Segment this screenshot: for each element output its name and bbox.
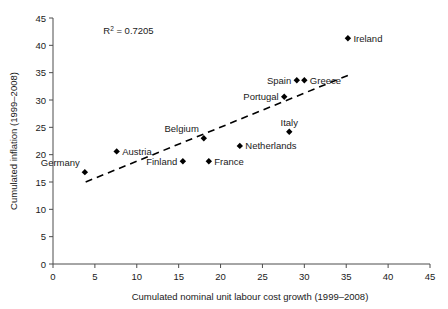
- data-point-marker: [237, 143, 243, 149]
- x-axis-ticks: 051015202530354045: [50, 264, 435, 282]
- data-point-label: Ireland: [353, 33, 382, 44]
- data-point-label: Germany: [41, 157, 80, 168]
- r-squared-annotation: R2 = 0.7205: [103, 25, 153, 37]
- data-point-marker: [206, 158, 212, 164]
- x-tick-label: 0: [50, 271, 55, 282]
- data-point-marker: [201, 135, 207, 141]
- y-tick-label: 30: [35, 95, 46, 106]
- scatter-chart: 051015202530354045 051015202530354045 Ge…: [0, 0, 448, 309]
- annotations-group: R2 = 0.7205: [103, 25, 153, 37]
- x-tick-label: 10: [131, 271, 142, 282]
- y-tick-label: 45: [35, 13, 46, 24]
- y-tick-label: 25: [35, 122, 46, 133]
- y-tick-label: 0: [41, 259, 46, 270]
- x-tick-label: 30: [299, 271, 310, 282]
- data-point-label: Spain: [267, 75, 291, 86]
- data-point-label: Netherlands: [245, 140, 296, 151]
- x-tick-label: 15: [173, 271, 184, 282]
- data-point-label: Portugal: [243, 91, 278, 102]
- y-tick-label: 40: [35, 40, 46, 51]
- data-point-marker: [301, 77, 307, 83]
- x-tick-label: 25: [257, 271, 268, 282]
- y-tick-label: 5: [41, 231, 46, 242]
- data-points-group: GermanyAustriaFinlandBelgiumFranceNether…: [41, 33, 383, 176]
- data-point-marker: [294, 77, 300, 83]
- x-tick-label: 20: [215, 271, 226, 282]
- y-tick-label: 10: [35, 204, 46, 215]
- data-point-label: Finland: [146, 156, 177, 167]
- y-tick-label: 15: [35, 177, 46, 188]
- x-tick-label: 40: [383, 271, 394, 282]
- x-tick-label: 35: [341, 271, 352, 282]
- x-tick-label: 5: [92, 271, 97, 282]
- data-point-marker: [345, 35, 351, 41]
- chart-canvas: 051015202530354045 051015202530354045 Ge…: [0, 0, 448, 309]
- data-point-marker: [281, 94, 287, 100]
- axes-group: [53, 18, 430, 264]
- data-point-label: France: [214, 156, 244, 167]
- data-point-label: Belgium: [164, 123, 198, 134]
- data-point-label: Italy: [281, 117, 299, 128]
- data-point-marker: [113, 148, 119, 154]
- y-tick-label: 35: [35, 67, 46, 78]
- r-squared-value: = 0.7205: [114, 25, 154, 36]
- y-axis-ticks: 051015202530354045: [35, 13, 53, 270]
- data-point-marker: [286, 129, 292, 135]
- data-point-marker: [82, 169, 88, 175]
- x-tick-label: 45: [425, 271, 436, 282]
- x-axis-title: Cumulated nominal unit labour cost growt…: [132, 291, 369, 302]
- data-point-marker: [180, 158, 186, 164]
- y-axis-title: Cumulated inflation (1999–2008): [8, 72, 19, 210]
- data-point-label: Greece: [310, 75, 341, 86]
